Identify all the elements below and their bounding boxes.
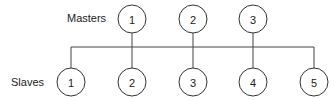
master-number: 2 [190, 14, 196, 26]
master-node-1: 1 [118, 5, 146, 33]
master-slave-diagram: Masters Slaves 123 12345 [0, 0, 335, 101]
slave-node-5: 5 [300, 68, 328, 96]
slave-node-1: 1 [57, 68, 85, 96]
slave-number: 1 [68, 77, 74, 89]
masters-label: Masters [67, 12, 107, 24]
master-node-3: 3 [239, 5, 267, 33]
connections [71, 33, 314, 68]
slave-number: 5 [311, 77, 317, 89]
slave-number: 3 [190, 77, 196, 89]
master-number: 1 [129, 14, 135, 26]
slave-node-4: 4 [239, 68, 267, 96]
slave-number: 4 [250, 77, 256, 89]
slave-number: 2 [129, 77, 135, 89]
slave-node-2: 2 [118, 68, 146, 96]
master-node-2: 2 [179, 5, 207, 33]
slaves-label: Slaves [11, 76, 45, 88]
slave-nodes: 12345 [57, 68, 328, 96]
master-nodes: 123 [118, 5, 267, 33]
master-number: 3 [250, 14, 256, 26]
slave-node-3: 3 [179, 68, 207, 96]
